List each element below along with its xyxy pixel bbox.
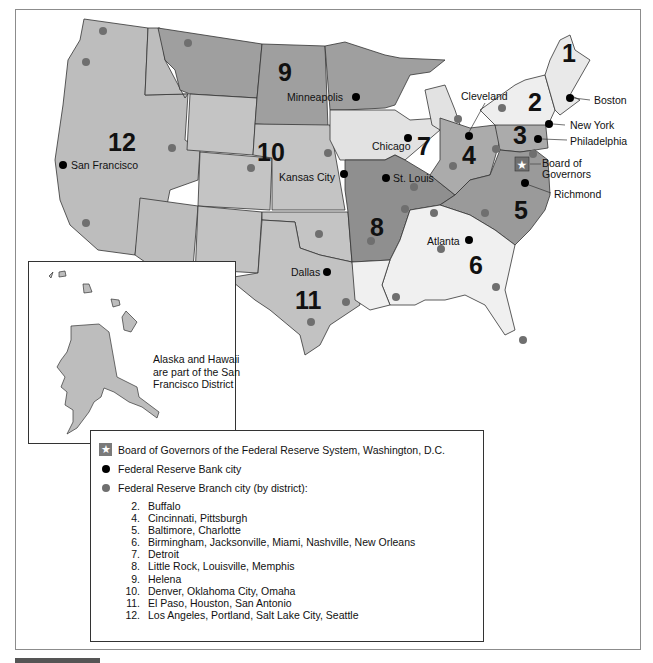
branch-item: 6.Birmingham, Jacksonville, Miami, Nashv… xyxy=(118,536,415,548)
city-label-chicago: Chicago xyxy=(372,140,411,152)
branch-num: 6. xyxy=(118,536,140,548)
branch-item: 8.Little Rock, Louisville, Memphis xyxy=(118,560,415,572)
city-label-cleveland: Cleveland xyxy=(461,90,508,102)
branch-item: 5.Baltimore, Charlotte xyxy=(118,524,415,536)
branch-num: 2. xyxy=(118,500,140,512)
city-label-st-louis: St. Louis xyxy=(393,172,434,184)
branch-num: 10. xyxy=(118,585,140,597)
branch-num: 11. xyxy=(118,597,140,609)
alaska-shape xyxy=(57,324,159,434)
map-legend: ★ Board of Governors of the Federal Rese… xyxy=(90,430,484,642)
board-of-governors-label: Board of Governors xyxy=(542,158,591,180)
branch-item: 7.Detroit xyxy=(118,548,415,560)
board-of-governors-marker: ★ xyxy=(515,157,529,172)
city-label-kansas-city: Kansas City xyxy=(279,171,335,183)
city-label-richmond: Richmond xyxy=(554,188,601,200)
legend-branch-label: Federal Reserve Branch city (by district… xyxy=(118,482,308,494)
board-label-line2: Governors xyxy=(542,169,591,180)
branch-cities: Birmingham, Jacksonville, Miami, Nashvil… xyxy=(148,536,415,548)
branch-cities: Detroit xyxy=(148,548,179,560)
branch-item: 11.El Paso, Houston, San Antonio xyxy=(118,597,415,609)
star-icon: ★ xyxy=(99,443,112,456)
branch-item: 10.Denver, Oklahoma City, Omaha xyxy=(118,585,415,597)
legend-board-label: Board of Governors of the Federal Reserv… xyxy=(118,444,445,456)
caption-bar xyxy=(15,658,100,663)
hawaii-islands xyxy=(49,271,137,332)
district-number-7: 7 xyxy=(417,134,431,159)
branch-cities: Los Angeles, Portland, Salt Lake City, S… xyxy=(148,609,359,621)
city-label-boston: Boston xyxy=(594,94,627,106)
branch-cities: El Paso, Houston, San Antonio xyxy=(148,597,292,609)
inset-note: Alaska and Hawaii are part of the San Fr… xyxy=(153,353,253,391)
district-number-2: 2 xyxy=(528,90,542,115)
legend-board-row: ★ Board of Governors of the Federal Rese… xyxy=(99,443,445,456)
branch-item: 9.Helena xyxy=(118,573,415,585)
district-9-dakotas xyxy=(255,44,328,128)
district-number-11: 11 xyxy=(295,288,321,313)
district-number-5: 5 xyxy=(514,198,528,223)
svg-text:★: ★ xyxy=(517,158,528,172)
city-label-atlanta: Atlanta xyxy=(427,235,460,247)
city-label-minneapolis: Minneapolis xyxy=(287,91,343,103)
branch-cities: Helena xyxy=(148,573,181,585)
district-number-6: 6 xyxy=(469,253,483,278)
inset-note-line2: are part of the San xyxy=(153,366,253,379)
branch-num: 12. xyxy=(118,609,140,621)
branch-num: 9. xyxy=(118,573,140,585)
district-number-8: 8 xyxy=(370,215,384,240)
branch-num: 5. xyxy=(118,524,140,536)
branch-num: 8. xyxy=(118,560,140,572)
bank-dot-icon xyxy=(102,465,110,473)
branch-num: 7. xyxy=(118,548,140,560)
inset-note-line3: Francisco District xyxy=(153,378,253,391)
city-label-new-york: New York xyxy=(570,119,614,131)
legend-bank-label: Federal Reserve Bank city xyxy=(118,463,241,475)
branch-cities: Denver, Oklahoma City, Omaha xyxy=(148,585,295,597)
district-number-12: 12 xyxy=(108,130,136,155)
branch-item: 12.Los Angeles, Portland, Salt Lake City… xyxy=(118,609,415,621)
alaska-hawaii-inset: Alaska and Hawaii are part of the San Fr… xyxy=(28,261,236,444)
district-number-10: 10 xyxy=(257,140,285,165)
city-label-dallas: Dallas xyxy=(291,266,320,278)
city-label-philadelphia: Philadelphia xyxy=(570,135,627,147)
city-label-san-francisco: San Francisco xyxy=(71,159,138,171)
branch-cities: Buffalo xyxy=(148,500,181,512)
branch-cities: Baltimore, Charlotte xyxy=(148,524,241,536)
district-10-wyoming xyxy=(187,94,257,155)
district-number-9: 9 xyxy=(278,60,292,85)
district-number-3: 3 xyxy=(513,123,527,148)
branch-cities: Little Rock, Louisville, Memphis xyxy=(148,560,294,572)
inset-note-line1: Alaska and Hawaii xyxy=(153,353,253,366)
branch-cities: Cincinnati, Pittsburgh xyxy=(148,512,247,524)
branch-item: 4.Cincinnati, Pittsburgh xyxy=(118,512,415,524)
district-number-1: 1 xyxy=(562,41,576,66)
branch-num: 4. xyxy=(118,512,140,524)
legend-bank-row: Federal Reserve Bank city xyxy=(99,463,241,475)
branch-list: 2.Buffalo 4.Cincinnati, Pittsburgh 5.Bal… xyxy=(118,500,415,621)
branch-dot-icon xyxy=(102,484,110,492)
branch-item: 2.Buffalo xyxy=(118,500,415,512)
legend-branch-row: Federal Reserve Branch city (by district… xyxy=(99,482,308,494)
district-number-4: 4 xyxy=(462,143,476,168)
